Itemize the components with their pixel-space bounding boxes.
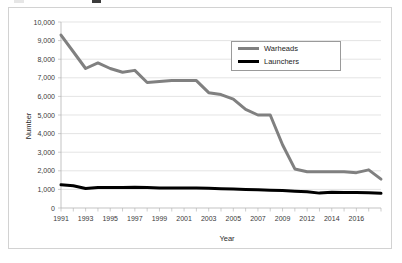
x-tick-marks-group <box>61 208 381 212</box>
y-tick-label: 10,000 <box>34 19 56 26</box>
legend-label-warheads: Warheads <box>264 45 298 53</box>
x-tick-label: 2005 <box>226 215 242 222</box>
legend-item-warheads: Warheads <box>232 42 340 55</box>
x-tick-label: 2001 <box>176 215 192 222</box>
x-tick-label: 1991 <box>53 215 69 222</box>
x-tick-label: 2009 <box>275 215 291 222</box>
x-tick-label: 1993 <box>78 215 94 222</box>
top-edge-artifact-right <box>92 0 101 3</box>
legend-swatch-launchers <box>238 60 259 63</box>
y-tick-label: 5,000 <box>37 112 55 119</box>
y-tick-label: 1,000 <box>37 186 55 193</box>
legend-label-launchers: Launchers <box>264 58 299 66</box>
x-axis-title: Year <box>219 234 235 243</box>
legend-swatch-warheads <box>238 47 259 50</box>
y-tick-label: 3,000 <box>37 149 55 156</box>
legend-item-launchers: Launchers <box>232 55 340 68</box>
y-tick-label: 0 <box>51 205 55 212</box>
x-tick-label: 2003 <box>201 215 217 222</box>
x-tick-label: 2012 <box>299 215 315 222</box>
x-tick-label: 1995 <box>102 215 118 222</box>
chart-legend: Warheads Launchers <box>231 41 341 71</box>
y-tick-label: 2,000 <box>37 167 55 174</box>
series-line-launchers <box>61 185 381 194</box>
x-axis-tick-labels: 1991199319951997199920012003200520072009… <box>53 215 364 222</box>
y-axis-title: Number <box>24 112 33 139</box>
y-tick-label: 6,000 <box>37 93 55 100</box>
x-tick-label: 2007 <box>250 215 266 222</box>
top-edge-artifact-left <box>14 0 24 3</box>
y-tick-label: 8,000 <box>37 56 55 63</box>
y-tick-label: 4,000 <box>37 130 55 137</box>
y-axis-tick-labels: 10,0009,0008,0007,0006,0005,0004,0003,00… <box>34 19 56 212</box>
x-tick-label: 1999 <box>152 215 168 222</box>
y-tick-label: 7,000 <box>37 74 55 81</box>
y-tick-marks-group <box>58 22 61 208</box>
x-tick-label: 1997 <box>127 215 143 222</box>
x-tick-label: 2014 <box>324 215 340 222</box>
x-tick-label: 2016 <box>349 215 365 222</box>
chart-frame: 10,0009,0008,0007,0006,0005,0004,0003,00… <box>8 7 392 249</box>
y-tick-label: 9,000 <box>37 37 55 44</box>
